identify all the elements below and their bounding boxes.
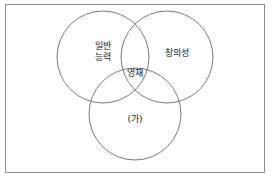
label-general-ability: 일반 능력 [95, 41, 111, 62]
label-creativity: 창의성 [165, 48, 189, 59]
venn-circles-group [0, 0, 272, 179]
label-unknown-factor: (가) [127, 114, 142, 125]
venn-diagram-figure: 일반 능력 창의성 영재 (가) [0, 0, 272, 179]
label-giftedness-intersection: 영재 [127, 68, 143, 79]
